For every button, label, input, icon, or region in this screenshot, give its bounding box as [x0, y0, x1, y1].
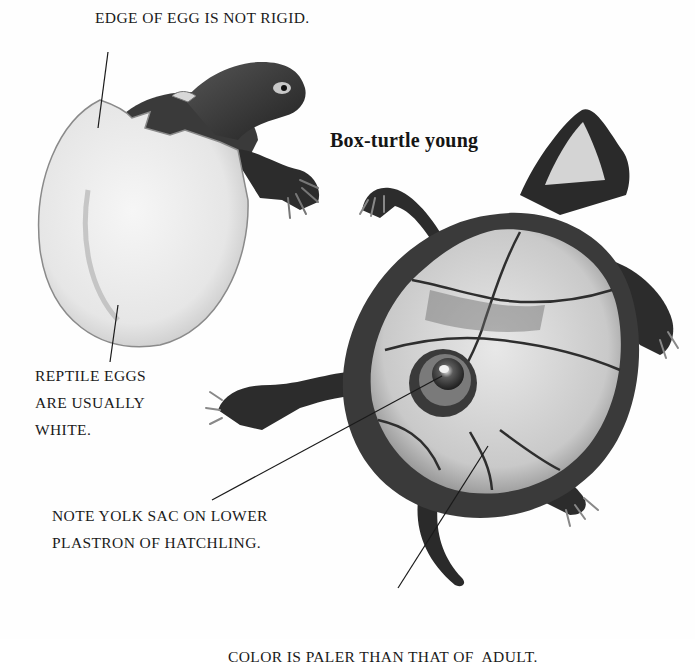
annotation-line: COLOR IS PALER THAN THAT OF ADULT.: [228, 643, 538, 666]
figure-title: Box-turtle young: [330, 129, 478, 152]
annotation-egg-edge: EDGE OF EGG IS NOT RIGID.: [95, 4, 310, 31]
hatching-egg-illustration: [39, 62, 319, 347]
annotation-hatchling-color: COLOR IS PALER THAN THAT OF ADULT.: [228, 589, 538, 666]
annotation-yolk-sac: NOTE YOLK SAC ON LOWER PLASTRON OF HATCH…: [52, 502, 268, 556]
annotation-egg-color: REPTILE EGGS ARE USUALLY WHITE.: [35, 362, 146, 443]
annotation-line: NOTE YOLK SAC ON LOWER: [52, 502, 268, 529]
annotation-line: EDGE OF EGG IS NOT RIGID.: [95, 4, 310, 31]
annotation-line: PLASTRON OF HATCHLING.: [52, 529, 268, 556]
annotation-line: REPTILE EGGS: [35, 362, 146, 389]
annotation-line: ARE USUALLY: [35, 389, 146, 416]
yolk-sac: [409, 349, 477, 417]
annotation-line: WHITE.: [35, 416, 146, 443]
